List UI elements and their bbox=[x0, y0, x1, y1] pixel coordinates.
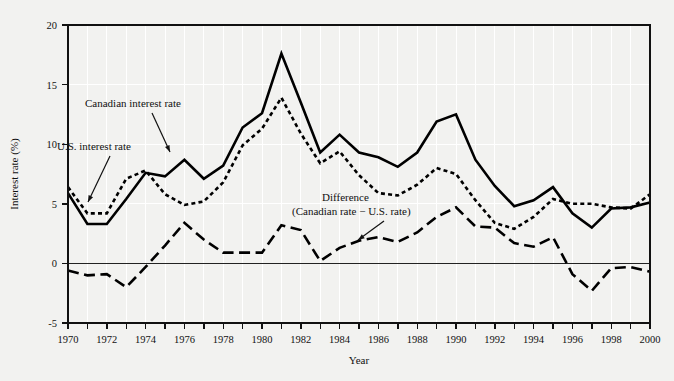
x-tick-label: 1996 bbox=[562, 334, 583, 345]
x-axis-title: Year bbox=[349, 354, 370, 366]
x-tick-label: 1998 bbox=[601, 334, 622, 345]
y-tick-label: 10 bbox=[47, 139, 58, 150]
difference-label-line1: Difference bbox=[322, 191, 369, 203]
x-tick-label: 2000 bbox=[640, 334, 661, 345]
y-tick-label: 20 bbox=[47, 20, 58, 31]
x-tick-label: 1988 bbox=[407, 334, 428, 345]
y-tick-label: 5 bbox=[52, 199, 57, 210]
x-tick-label: 1986 bbox=[368, 334, 389, 345]
y-axis-title: Interest rate (%) bbox=[8, 138, 21, 210]
x-tick-label: 1994 bbox=[523, 334, 545, 345]
x-tick-label: 1978 bbox=[213, 334, 234, 345]
chart-canvas: 20151050-5 19701972197419761978198019821… bbox=[0, 0, 674, 381]
x-tick-label: 1970 bbox=[58, 334, 79, 345]
difference-label-line2: (Canadian rate − U.S. rate) bbox=[292, 205, 411, 218]
x-tick-label: 1990 bbox=[446, 334, 467, 345]
y-tick-label: 0 bbox=[52, 258, 57, 269]
canadian-rate-label: Canadian interest rate bbox=[85, 97, 181, 109]
x-tick-label: 1982 bbox=[290, 334, 311, 345]
x-tick-label: 1984 bbox=[329, 334, 351, 345]
x-tick-label: 1974 bbox=[135, 334, 157, 345]
y-tick-label: 15 bbox=[47, 80, 58, 91]
x-tick-label: 1972 bbox=[96, 334, 117, 345]
interest-rate-chart-figure: 20151050-5 19701972197419761978198019821… bbox=[0, 0, 674, 381]
y-tick-label: -5 bbox=[48, 318, 57, 329]
x-tick-label: 1976 bbox=[174, 334, 195, 345]
x-tick-label: 1992 bbox=[484, 334, 505, 345]
x-tick-label: 1980 bbox=[252, 334, 273, 345]
us-rate-label: U.S. interest rate bbox=[57, 140, 131, 152]
